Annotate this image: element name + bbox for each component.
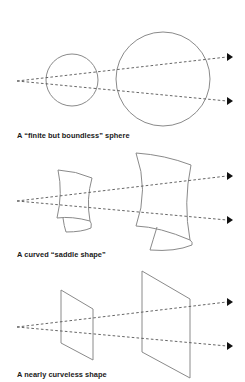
small-saddle	[57, 170, 92, 232]
large-sphere	[116, 32, 210, 126]
upper-arrowhead-icon	[227, 172, 233, 180]
small-plane	[61, 290, 93, 360]
caption-saddle: A curved “saddle shape”	[17, 250, 106, 259]
lower-ray	[17, 201, 227, 220]
lower-arrowhead-icon	[227, 97, 233, 105]
lower-ray	[17, 327, 227, 346]
diagram-canvas	[0, 0, 245, 382]
upper-ray	[17, 302, 227, 327]
lower-arrowhead-icon	[227, 216, 233, 224]
caption-sphere: A “finite but boundless” sphere	[17, 131, 130, 140]
lower-arrowhead-icon	[227, 342, 233, 350]
panel-saddle	[17, 153, 233, 250]
large-plane	[142, 271, 190, 378]
panel-sphere	[17, 32, 233, 126]
caption-plane: A nearly curveless shape	[17, 370, 107, 379]
panel-plane	[17, 271, 233, 378]
upper-arrowhead-icon	[227, 53, 233, 61]
small-sphere	[46, 54, 98, 106]
upper-arrowhead-icon	[227, 298, 233, 306]
large-saddle	[136, 153, 192, 250]
upper-ray	[17, 176, 227, 201]
